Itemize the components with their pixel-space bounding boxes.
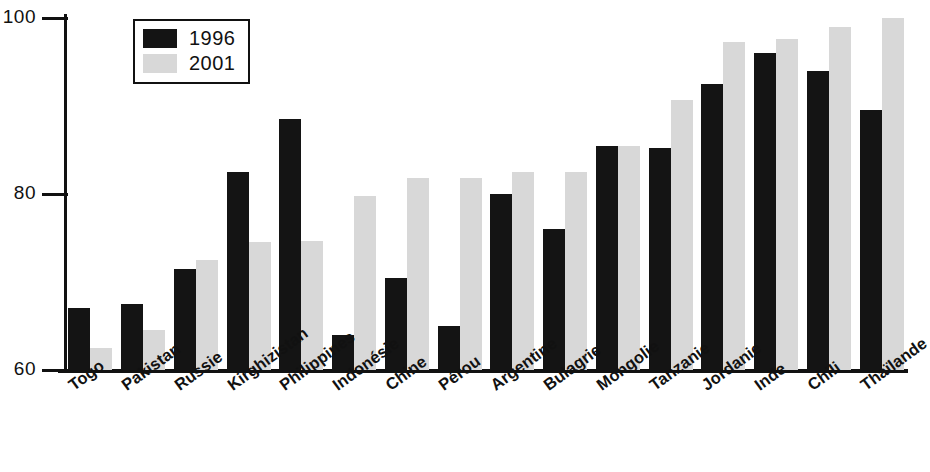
y-tick-label: 100 bbox=[0, 6, 36, 28]
bar-1996 bbox=[438, 326, 460, 370]
bar-group bbox=[64, 18, 117, 370]
bar-group bbox=[592, 18, 645, 370]
bar-2001 bbox=[723, 42, 745, 370]
bar-1996 bbox=[385, 278, 407, 370]
bar-1996 bbox=[332, 335, 354, 370]
bar-2001 bbox=[249, 242, 271, 370]
bar-1996 bbox=[649, 148, 671, 370]
bar-1996 bbox=[68, 308, 90, 370]
bar-2001 bbox=[829, 27, 851, 370]
bar-group bbox=[539, 18, 592, 370]
bar-2001 bbox=[301, 241, 323, 370]
bar-group bbox=[750, 18, 803, 370]
bar-2001 bbox=[565, 172, 587, 370]
legend-swatch-1996-icon bbox=[143, 29, 177, 48]
bar-1996 bbox=[174, 269, 196, 370]
bar-2001 bbox=[776, 39, 798, 370]
chart-legend: 1996 2001 bbox=[133, 19, 250, 84]
legend-label-1996: 1996 bbox=[189, 27, 236, 50]
bar-group bbox=[433, 18, 486, 370]
bar-group bbox=[381, 18, 434, 370]
legend-item-1996: 1996 bbox=[143, 26, 236, 51]
y-tick-label: 60 bbox=[0, 358, 36, 380]
bar-1996 bbox=[121, 304, 143, 370]
legend-label-2001: 2001 bbox=[189, 52, 236, 75]
bar-2001 bbox=[512, 172, 534, 370]
bar-2001 bbox=[196, 260, 218, 370]
bar-group bbox=[328, 18, 381, 370]
bar-1996 bbox=[860, 110, 882, 370]
bar-2001 bbox=[143, 330, 165, 370]
bar-2001 bbox=[354, 196, 376, 370]
bar-2001 bbox=[90, 348, 112, 370]
bar-group bbox=[644, 18, 697, 370]
bar-2001 bbox=[618, 146, 640, 370]
bar-1996 bbox=[279, 119, 301, 370]
bar-2001 bbox=[882, 18, 904, 370]
legend-swatch-2001-icon bbox=[143, 54, 177, 73]
bar-group bbox=[486, 18, 539, 370]
bar-1996 bbox=[543, 229, 565, 370]
bar-1996 bbox=[807, 71, 829, 370]
bar-1996 bbox=[701, 84, 723, 370]
bar-group bbox=[855, 18, 908, 370]
y-tick-label: 80 bbox=[0, 182, 36, 204]
bar-group bbox=[803, 18, 856, 370]
bar-2001 bbox=[407, 178, 429, 370]
bar-group bbox=[275, 18, 328, 370]
bar-1996 bbox=[227, 172, 249, 370]
bar-1996 bbox=[596, 146, 618, 370]
bar-1996 bbox=[490, 194, 512, 370]
bar-group bbox=[697, 18, 750, 370]
legend-item-2001: 2001 bbox=[143, 51, 236, 76]
bar-2001 bbox=[671, 100, 693, 370]
bar-1996 bbox=[754, 53, 776, 370]
bar-2001 bbox=[460, 178, 482, 370]
